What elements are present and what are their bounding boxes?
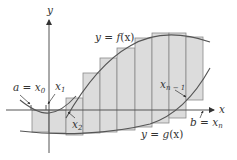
rectangle-5 xyxy=(100,58,117,132)
label-b-xn: b = xn xyxy=(190,116,223,130)
area-between-curves-diagram: y x y = f(x) y = g(x) a = x0 x1 x2 xn − … xyxy=(0,0,237,160)
rectangle-6 xyxy=(117,48,135,130)
label-x1: x1 xyxy=(55,80,65,94)
label-a-x0: a = x0 xyxy=(13,81,46,95)
x-axis-label: x xyxy=(219,103,225,115)
rectangle-7 xyxy=(135,38,152,127)
rectangle-9 xyxy=(169,33,186,118)
label-f: y = f(x) xyxy=(94,31,134,43)
y-axis-label: y xyxy=(46,4,54,16)
label-g: y = g(x) xyxy=(140,128,183,140)
arrow-a xyxy=(20,95,30,104)
rectangle-4 xyxy=(83,73,100,133)
rectangle-2 xyxy=(49,110,66,133)
